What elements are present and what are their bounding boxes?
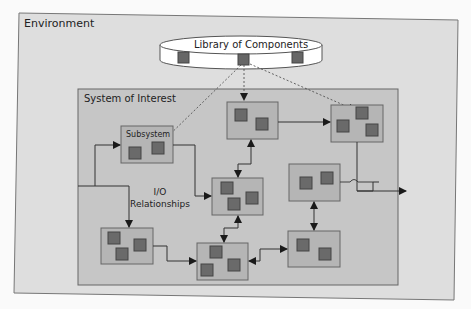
system-diagram: Environment System of Interest Library o… — [0, 0, 471, 309]
subsystem-box — [331, 105, 383, 142]
io-label-line2: Relationships — [130, 199, 190, 209]
subsystem-box — [289, 164, 340, 201]
io-label-line1: I/O — [154, 187, 167, 197]
library-label: Library of Components — [194, 39, 308, 50]
subsystem-label: Subsystem — [126, 130, 170, 139]
subsystem-box — [212, 178, 263, 215]
subsystem-box — [197, 243, 248, 280]
environment-label: Environment — [24, 17, 95, 30]
subsystem-box — [288, 231, 340, 267]
library-component — [238, 54, 249, 65]
library-component — [292, 52, 303, 63]
library-component — [178, 52, 189, 63]
subsystem-box: Subsystem — [121, 126, 173, 163]
subsystem-box — [227, 102, 278, 139]
subsystem-box — [101, 228, 153, 264]
library-of-components: Library of Components — [160, 36, 322, 69]
system-of-interest-label: System of Interest — [84, 93, 176, 104]
